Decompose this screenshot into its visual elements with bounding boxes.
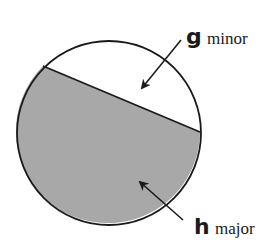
minor-arrow-icon bbox=[142, 40, 181, 88]
major-letter: h bbox=[194, 214, 210, 239]
minor-letter: g bbox=[186, 24, 202, 49]
circle-segments-diagram: g minor h major bbox=[0, 0, 278, 249]
major-word: major bbox=[215, 219, 255, 238]
minor-word: minor bbox=[207, 29, 248, 48]
